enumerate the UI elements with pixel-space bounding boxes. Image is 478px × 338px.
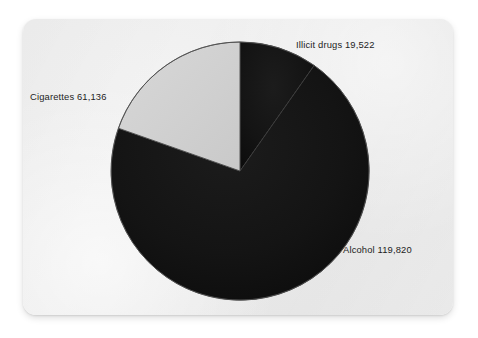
pie-chart-svg: [23, 19, 453, 315]
pie-label-cigarettes: Cigarettes 61,136: [30, 91, 107, 103]
pie-chart: [23, 19, 453, 315]
figure-root: Illicit drugs 19,522 Cigarettes 61,136 A…: [0, 0, 478, 338]
chart-card: Illicit drugs 19,522 Cigarettes 61,136 A…: [23, 19, 453, 315]
pie-label-illicit-drugs: Illicit drugs 19,522: [296, 39, 375, 51]
pie-label-alcohol: Alcohol 119,820: [343, 244, 412, 256]
